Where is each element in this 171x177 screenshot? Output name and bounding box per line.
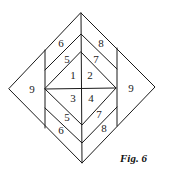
region-label: 8 <box>98 37 104 49</box>
region-label: 5 <box>64 111 70 123</box>
region-label: 5 <box>64 53 70 65</box>
diamond-dissection-diagram: 1 2 3 4 5 7 6 8 5 7 6 8 9 9 <box>0 0 171 177</box>
region-label: 7 <box>93 53 99 65</box>
region-label: 1 <box>70 69 76 81</box>
region-label: 9 <box>128 82 134 94</box>
region-label: 3 <box>70 92 76 104</box>
region-label: 9 <box>29 83 35 95</box>
region-label: 2 <box>87 69 93 81</box>
figure-caption: Fig. 6 <box>120 152 147 164</box>
region-label: 6 <box>58 124 64 136</box>
center-horizontal-line <box>45 88 116 89</box>
region-label: 8 <box>101 122 107 134</box>
region-label: 7 <box>96 108 102 120</box>
region-label: 6 <box>58 37 64 49</box>
region-label: 4 <box>88 92 94 104</box>
